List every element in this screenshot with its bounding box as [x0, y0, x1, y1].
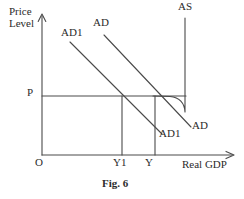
ad1-curve-label-bottom: AD1: [159, 128, 180, 140]
y-axis-title: Price Level: [9, 6, 34, 29]
output-y-tick-label: Y: [145, 157, 153, 169]
ad-curve-label-top: AD: [93, 17, 109, 29]
ad1-curve-label-top: AD1: [61, 27, 82, 39]
x-axis-title: Real GDP: [182, 159, 227, 171]
figure-caption: Fig. 6: [102, 178, 128, 190]
as-curve: [153, 18, 185, 112]
ad-curve: [104, 35, 191, 127]
as-curve-label: AS: [178, 1, 192, 13]
figure-container: Price Level P O Y1 Y Real GDP AD1 AD AD1…: [0, 0, 244, 199]
output-y1-tick-label: Y1: [113, 157, 126, 169]
ad-curve-label-bottom: AD: [192, 120, 208, 132]
origin-label: O: [35, 157, 43, 169]
ad1-curve: [70, 42, 162, 134]
price-level-tick-label: P: [27, 87, 33, 99]
